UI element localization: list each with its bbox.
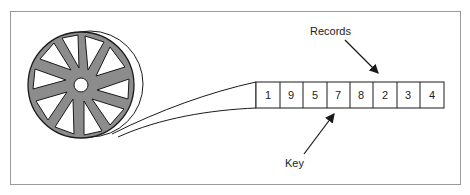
record-block [256, 82, 444, 108]
record-cell-3: 5 [312, 89, 318, 101]
record-cell-8: 4 [429, 89, 435, 101]
key-arrow-icon [304, 114, 334, 154]
record-cell-6: 2 [382, 89, 388, 101]
record-cell-4: 7 [335, 89, 341, 101]
tape-reel-icon [28, 31, 143, 138]
record-cell-1: 1 [265, 89, 271, 101]
records-label: Records [310, 25, 351, 37]
record-cell-7: 3 [405, 89, 411, 101]
records-arrow-icon [345, 40, 378, 73]
key-label: Key [285, 157, 304, 169]
record-cell-5: 8 [358, 89, 364, 101]
diagram-canvas [0, 0, 470, 195]
record-cell-2: 9 [288, 89, 294, 101]
reel-hub [74, 78, 88, 92]
